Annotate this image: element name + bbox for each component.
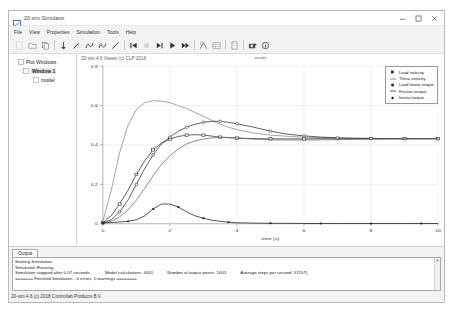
menu-simulation[interactable]: Simulation (77, 29, 100, 35)
step-icon[interactable] (153, 39, 165, 52)
pencil-icon[interactable] (70, 39, 82, 52)
tree-window-1[interactable]: − Window 1 (12, 66, 76, 75)
tree-label-model: model (41, 77, 55, 83)
legend-inertia-torque[interactable]: Inertia torque (389, 95, 434, 101)
curves-icon[interactable] (96, 39, 108, 52)
legend-marker-square (389, 69, 397, 75)
run-icon[interactable] (166, 39, 178, 52)
toolbar-separator-5 (241, 39, 245, 52)
window-icon (23, 68, 29, 74)
tree-sidebar: Plot Windows − Window 1 model (9, 54, 77, 246)
scroll-up-icon[interactable]: ▲ (435, 258, 440, 263)
tab-output[interactable]: Output (12, 249, 38, 257)
menu-view[interactable]: View (29, 29, 40, 35)
table-icon[interactable] (210, 39, 222, 52)
toolbar-separator-2 (122, 39, 126, 52)
marker-icon[interactable] (57, 39, 69, 52)
stop-icon[interactable] (140, 39, 152, 52)
menu-file[interactable]: File (14, 29, 22, 35)
output-tabs: Output (12, 249, 441, 257)
line-icon[interactable] (109, 39, 121, 52)
tree-label-window-1: Window 1 (31, 68, 56, 74)
plot-panel[interactable]: 20-sim 4.6 Viewer (c) CLP 2018 model 024… (77, 54, 444, 246)
legend-marker-dash-2 (389, 88, 397, 94)
svg-text:8: 8 (370, 228, 373, 232)
menu-help[interactable]: Help (126, 29, 136, 35)
svg-text:0.4: 0.4 (91, 143, 99, 147)
legend-label-inertia-torque: Inertia torque (399, 95, 424, 100)
svg-text:0: 0 (95, 222, 98, 226)
output-body[interactable]: Starting Simulation. Simulation Running.… (12, 257, 441, 291)
main-body: Plot Windows − Window 1 model 20-sim 4.6… (9, 54, 444, 246)
tree-model[interactable]: model (12, 75, 76, 84)
output-stat-calculations: Model calculations: 4001 (105, 270, 153, 276)
menu-tools[interactable]: Tools (107, 29, 119, 35)
svg-text:0: 0 (101, 228, 104, 232)
svg-text:0.6: 0.6 (91, 103, 99, 107)
legend-marker-circle (389, 82, 397, 88)
menu-bar: File View Properties Simulation Tools He… (9, 26, 444, 37)
output-line-finished: ======= Finished Simulation - 0 errors, … (15, 276, 438, 282)
svg-text:0.8: 0.8 (91, 64, 99, 68)
open-icon[interactable] (26, 39, 38, 52)
window-title: 20-sim Simulator (24, 15, 65, 21)
toolbar (9, 37, 444, 54)
folder-icon (18, 59, 24, 65)
simulator-window: 20-sim Simulator File View Properties Si… (8, 10, 445, 303)
svg-text:2: 2 (168, 228, 171, 232)
app-icon (13, 14, 21, 22)
legend-marker-dot (389, 95, 397, 101)
minimize-button[interactable] (394, 12, 410, 25)
toolbar-separator-4 (223, 39, 227, 52)
output-stat-steps: Average steps per second: 57157) (240, 270, 307, 276)
legend-label-friction-torque: Friction torque (399, 89, 426, 94)
curve-icon[interactable] (83, 39, 95, 52)
svg-text:4: 4 (235, 228, 238, 232)
fast-forward-icon[interactable] (179, 39, 191, 52)
output-stat-stopped: Simulation stopped after 0.07 seconds. (15, 270, 91, 276)
skip-start-icon[interactable] (127, 39, 139, 52)
legend-label-load-motor-torque: Load motor torque (399, 82, 434, 87)
chart-legend[interactable]: Load velocity Theta velocity Load motor … (385, 66, 438, 104)
tree-label-plot-windows: Plot Windows (26, 59, 56, 65)
info-icon[interactable] (259, 39, 271, 52)
doc-icon[interactable] (228, 39, 240, 52)
close-button[interactable] (426, 12, 442, 25)
copy-icon[interactable] (39, 39, 51, 52)
output-pane: Output Starting Simulation. Simulation R… (9, 246, 444, 291)
status-text: 20-sim 4.6 (c) 2018 Controllab Products … (11, 294, 102, 299)
legend-label-theta-velocity: Theta velocity (399, 76, 426, 81)
legend-marker-dash (389, 76, 397, 82)
camera-icon[interactable] (246, 39, 258, 52)
legend-load-motor-torque[interactable]: Load motor torque (389, 82, 434, 88)
menu-properties[interactable]: Properties (47, 29, 70, 35)
svg-text:10: 10 (435, 228, 441, 232)
new-icon[interactable] (13, 39, 25, 52)
status-bar: 20-sim 4.6 (c) 2018 Controllab Products … (9, 291, 444, 302)
svg-text:time {s}: time {s} (261, 236, 279, 240)
model-icon (33, 77, 39, 83)
maximize-button[interactable] (410, 12, 426, 25)
plot-title: model (77, 55, 444, 60)
output-scrollbar[interactable]: ▲ (434, 258, 440, 290)
toolbar-separator-1 (52, 39, 56, 52)
legend-label-load-velocity: Load velocity (399, 70, 424, 75)
zoom-region-icon[interactable] (197, 39, 209, 52)
tree-plot-windows[interactable]: Plot Windows (12, 57, 76, 66)
toolbar-separator-3 (192, 39, 196, 52)
title-bar: 20-sim Simulator (9, 11, 444, 26)
window-controls (394, 12, 442, 25)
svg-text:0.2: 0.2 (91, 182, 99, 186)
output-stat-points: Number of output points: 1001 (167, 270, 226, 276)
svg-text:6: 6 (303, 228, 306, 232)
